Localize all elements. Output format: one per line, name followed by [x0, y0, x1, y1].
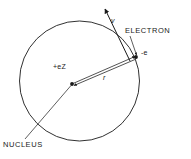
nucleus-charge-label: +eZ: [53, 63, 66, 70]
nucleus-leader-line: [25, 86, 71, 140]
nucleus-label: NUCLEUS: [3, 141, 43, 149]
radius-label: r: [103, 74, 105, 81]
electron-leader-line: [130, 36, 137, 55]
velocity-vector-arrow: [105, 9, 130, 61]
electron-point: [134, 55, 138, 59]
radius-line-lower: [74, 60, 135, 86]
bohr-atom-diagram: ELECTRON -e +eZ r v NUCLEUS: [0, 0, 191, 159]
nucleus-point: [70, 82, 74, 86]
electron-label: ELECTRON: [125, 27, 170, 35]
diagram-canvas: [0, 0, 191, 159]
velocity-label: v: [111, 17, 115, 24]
electron-charge-label: -e: [141, 49, 148, 56]
